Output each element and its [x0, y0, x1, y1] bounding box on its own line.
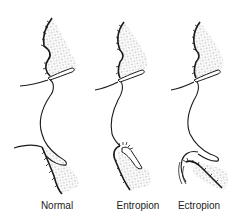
panel-ectropion	[171, 22, 228, 190]
globe-line	[171, 82, 219, 161]
globe-line	[95, 82, 122, 146]
lower-lid-skin	[43, 147, 78, 193]
label-entropion: Entropion	[117, 200, 160, 211]
diagram-artwork	[0, 0, 251, 223]
panel-entropion	[95, 22, 151, 191]
label-ectropion: Ectropion	[178, 200, 220, 211]
label-normal: Normal	[41, 200, 73, 211]
panel-normal	[14, 18, 79, 194]
lower-conj-line	[14, 145, 42, 148]
eyelid-diagram: Normal Entropion Ectropion	[0, 0, 251, 223]
